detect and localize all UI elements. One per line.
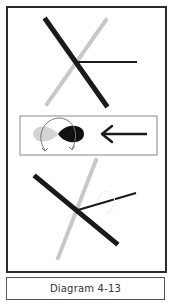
bottom-panel xyxy=(36,160,136,258)
thin-line xyxy=(78,193,136,210)
diagram-art xyxy=(0,0,177,308)
middle-panel xyxy=(20,116,157,155)
top-panel xyxy=(46,20,137,105)
thick-dark-line xyxy=(36,177,116,243)
caption-label: Diagram 4-13 xyxy=(50,283,121,294)
caption-box: Diagram 4-13 xyxy=(6,277,165,300)
